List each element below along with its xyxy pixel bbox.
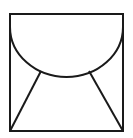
envelope-left-fold	[10, 71, 41, 131]
envelope-icon	[0, 0, 133, 138]
envelope-body	[10, 14, 123, 131]
envelope-flap-arc	[10, 27, 123, 77]
envelope-figure	[0, 0, 133, 138]
envelope-right-fold	[89, 71, 123, 131]
